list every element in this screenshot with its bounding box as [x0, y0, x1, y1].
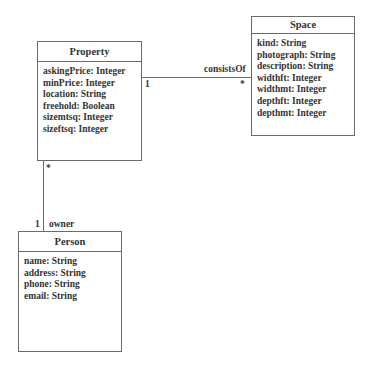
attribute: kind: String: [257, 38, 354, 50]
attribute: depthmt: Integer: [257, 108, 354, 120]
association-name-consistsof: consistsOf: [204, 64, 246, 74]
class-property: Property askingPrice: Integer minPrice: …: [37, 41, 142, 161]
attribute: name: String: [24, 256, 121, 268]
class-person: Person name: String address: String phon…: [18, 231, 122, 352]
attribute: location: String: [43, 89, 141, 101]
attribute: phone: String: [24, 279, 121, 291]
association-line-owner: [43, 161, 44, 231]
class-property-name: Property: [38, 42, 141, 62]
class-person-name: Person: [19, 232, 121, 252]
attribute: sizeftsq: Integer: [43, 124, 141, 136]
multiplicity-property-end: 1: [145, 79, 150, 89]
attribute: widthmt: Integer: [257, 84, 354, 96]
attribute: widthft: Integer: [257, 73, 354, 85]
attribute: photograph: String: [257, 50, 354, 62]
uml-diagram-canvas: Property askingPrice: Integer minPrice: …: [0, 0, 375, 368]
attribute: address: String: [24, 268, 121, 280]
attribute: sizemtsq: Integer: [43, 112, 141, 124]
class-space-name: Space: [252, 17, 354, 34]
attribute: email: String: [24, 291, 121, 303]
association-role-owner: owner: [49, 219, 74, 229]
attribute: description: String: [257, 61, 354, 73]
multiplicity-person-end: 1: [35, 219, 40, 229]
class-person-attributes: name: String address: String phone: Stri…: [19, 252, 121, 302]
class-property-attributes: askingPrice: Integer minPrice: Integer l…: [38, 62, 141, 136]
class-space-attributes: kind: String photograph: String descript…: [252, 34, 354, 119]
attribute: freehold: Boolean: [43, 101, 141, 113]
attribute: depthft: Integer: [257, 96, 354, 108]
attribute: askingPrice: Integer: [43, 66, 141, 78]
class-space: Space kind: String photograph: String de…: [251, 16, 355, 136]
association-line-consistsof: [142, 77, 251, 78]
multiplicity-property-owner-end: *: [46, 163, 51, 173]
attribute: minPrice: Integer: [43, 78, 141, 90]
multiplicity-space-end: *: [240, 79, 245, 89]
